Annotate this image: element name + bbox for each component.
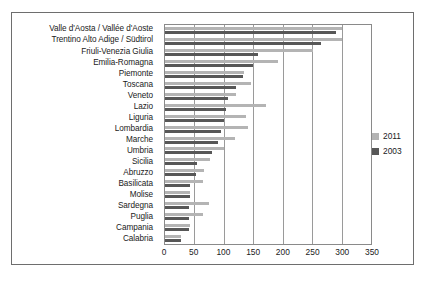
category-label: Puglia [20,212,153,223]
bar-row [165,36,371,47]
bar-2003 [165,130,221,133]
bar-row [165,145,371,156]
x-tick-label: 50 [189,247,198,257]
bar-2003 [165,31,336,34]
category-label: Marche [20,134,153,145]
bar-2011 [165,235,181,238]
bar-2011 [165,38,342,41]
bar-row [165,47,371,58]
category-label: Basilicata [20,179,153,190]
bar-row [165,156,371,167]
category-label: Lazio [20,101,153,112]
x-tick-label: 0 [162,247,167,257]
x-axis-tick-labels: 050100150200250300350 [164,247,372,261]
legend-label: 2003 [383,146,402,156]
bar-2003 [165,217,189,220]
bar-2011 [165,158,210,161]
bar-2003 [165,64,253,67]
bar-row [165,69,371,80]
category-label: Liguria [20,112,153,123]
chart-legend: 20112003 [372,131,414,161]
category-label: Abruzzo [20,168,153,179]
category-label: Sardegna [20,201,153,212]
bar-2003 [165,97,228,100]
bar-2003 [165,228,189,231]
plot-wrapper: Valle d'Aosta / Vallée d'AosteTrentino A… [12,13,413,264]
category-label: Calabria [20,234,153,245]
bar-series-container [165,25,371,244]
category-label: Friuli-Venezia Giulia [20,46,153,57]
bar-2003 [165,206,189,209]
legend-swatch-icon [372,148,379,155]
bar-row [165,233,371,244]
bar-2011 [165,82,251,85]
bar-2011 [165,115,246,118]
bar-2003 [165,42,321,45]
bar-2011 [165,202,209,205]
category-label: Molise [20,190,153,201]
bar-2011 [165,104,266,107]
category-label: Emilia-Romagna [20,57,153,68]
legend-swatch-icon [372,133,379,140]
x-tick-label: 250 [306,247,320,257]
x-tick-label: 200 [276,247,290,257]
bar-2011 [165,224,190,227]
bar-2003 [165,108,226,111]
bar-row [165,91,371,102]
bar-2003 [165,239,181,242]
bar-row [165,25,371,36]
bar-2011 [165,27,342,30]
bar-row [165,80,371,91]
bar-row [165,124,371,135]
bar-row [165,102,371,113]
x-tick-label: 300 [335,247,349,257]
category-label: Piemonte [20,68,153,79]
bar-row [165,222,371,233]
bar-2011 [165,137,235,140]
bar-2003 [165,151,212,154]
category-label: Veneto [20,90,153,101]
category-label: Sicilia [20,157,153,168]
x-tick-label: 350 [365,247,379,257]
bar-row [165,200,371,211]
bar-2011 [165,191,190,194]
bar-2011 [165,71,244,74]
bar-2003 [165,141,218,144]
bar-row [165,167,371,178]
bar-2011 [165,180,203,183]
bar-row [165,189,371,200]
x-tick-label: 100 [216,247,230,257]
bar-row [165,178,371,189]
bar-row [165,135,371,146]
chart-figure: Valle d'Aosta / Vallée d'AosteTrentino A… [11,12,414,265]
bar-2003 [165,173,196,176]
bar-2011 [165,126,248,129]
bar-2011 [165,169,204,172]
legend-item-2011: 2011 [372,131,414,141]
bar-row [165,113,371,124]
bar-2011 [165,60,278,63]
bar-2003 [165,184,190,187]
bar-2011 [165,93,236,96]
category-label: Trentino Alto Adige / Südtirol [20,35,153,46]
bar-2003 [165,119,224,122]
bar-2003 [165,195,190,198]
bar-row [165,211,371,222]
bar-2003 [165,53,258,56]
category-axis-labels: Valle d'Aosta / Vallée d'AosteTrentino A… [20,24,153,245]
plot-area [164,24,372,245]
legend-item-2003: 2003 [372,146,414,156]
bar-row [165,58,371,69]
category-label: Toscana [20,79,153,90]
bar-2003 [165,86,236,89]
category-label: Umbria [20,146,153,157]
legend-label: 2011 [383,131,401,141]
category-label: Valle d'Aosta / Vallée d'Aoste [20,24,153,35]
category-label: Lombardia [20,123,153,134]
category-label: Campania [20,223,153,234]
bar-2011 [165,49,313,52]
bar-2003 [165,162,197,165]
x-tick-label: 150 [246,247,260,257]
bar-2011 [165,213,203,216]
bar-2011 [165,147,224,150]
